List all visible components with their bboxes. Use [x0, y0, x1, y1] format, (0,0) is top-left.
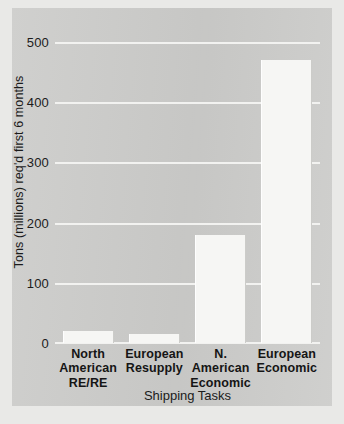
- bar: [63, 331, 114, 343]
- x-axis-title: Shipping Tasks: [55, 388, 320, 403]
- bar: [261, 60, 312, 343]
- y-axis-title-text: Tons (millions) req'd first 6 months: [12, 76, 26, 269]
- y-tick-label: 300: [27, 155, 49, 170]
- bar: [129, 334, 180, 343]
- bar: [195, 235, 246, 343]
- y-tick-label: 400: [27, 95, 49, 110]
- plot-area: 0100200300400500: [55, 30, 320, 343]
- x-tick-label-line: North American: [55, 347, 121, 376]
- x-tick-label: EuropeanResupply: [121, 347, 187, 390]
- chart-figure: Tons (millions) req'd first 6 months 010…: [0, 0, 344, 424]
- y-tick-label: 100: [27, 275, 49, 290]
- x-axis-tick-labels: North AmericanRE/REEuropeanResupplyN. Am…: [55, 347, 320, 390]
- y-tick-label: 200: [27, 215, 49, 230]
- x-tick-label-line: European: [254, 347, 320, 361]
- x-tick-label: EuropeanEconomic: [254, 347, 320, 390]
- x-tick-label: North AmericanRE/RE: [55, 347, 121, 390]
- y-tick-label: 500: [27, 35, 49, 50]
- y-axis-title: Tons (millions) req'd first 6 months: [8, 0, 30, 344]
- y-tick-label: 0: [42, 336, 49, 351]
- x-tick-label-line: Economic: [254, 361, 320, 375]
- x-tick-label: N. AmericanEconomic: [188, 347, 254, 390]
- bar-series: [55, 30, 320, 343]
- x-tick-label-line: Resupply: [121, 361, 187, 375]
- x-tick-label-line: N. American: [188, 347, 254, 376]
- x-tick-label-line: European: [121, 347, 187, 361]
